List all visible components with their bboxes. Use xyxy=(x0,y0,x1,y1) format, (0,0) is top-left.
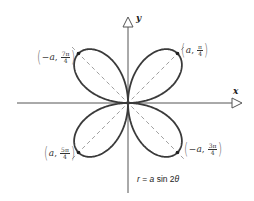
point-upper-left xyxy=(77,52,81,56)
open-paren: ( xyxy=(181,43,185,58)
eq-theta: θ xyxy=(175,174,180,184)
open-paren: ( xyxy=(184,142,188,157)
point-upper-right xyxy=(176,52,180,56)
label-a-pi-over-4: ( a, π 4 ) xyxy=(180,43,209,58)
point-lower-left xyxy=(77,151,81,155)
eq-equals: = xyxy=(140,174,150,184)
label-comma: , xyxy=(54,149,57,158)
close-paren: ) xyxy=(218,142,222,157)
fraction-denominator: 4 xyxy=(64,58,68,64)
label-neg-a-7pi-over-4: ( − a, 7π 4 ) xyxy=(36,50,76,65)
y-axis-arrow-icon xyxy=(123,17,133,27)
eq-rest: sin 2 xyxy=(154,174,174,184)
label-fraction: 7π 4 xyxy=(61,51,71,65)
close-paren: ) xyxy=(71,50,75,65)
label-comma: , xyxy=(202,145,205,154)
y-axis-label: y xyxy=(136,13,141,23)
fraction-denominator: 4 xyxy=(63,154,67,160)
point-lower-right xyxy=(176,151,180,155)
fraction-denominator: 4 xyxy=(211,150,215,156)
label-fraction: π 4 xyxy=(197,44,203,58)
open-paren: ( xyxy=(37,50,41,65)
x-axis-label: x xyxy=(233,86,238,96)
close-paren: ) xyxy=(71,146,75,161)
fraction-denominator: 4 xyxy=(198,51,202,57)
label-comma: , xyxy=(55,53,58,62)
label-sign: − xyxy=(42,53,50,62)
equation-label: r = a sin 2θ xyxy=(137,174,179,184)
polar-rose-figure xyxy=(0,0,254,201)
label-fraction: 3π 4 xyxy=(208,143,218,157)
close-paren: ) xyxy=(204,43,208,58)
label-neg-a-3pi-over-4: ( − a, 3π 4 ) xyxy=(183,142,223,157)
x-axis-arrow-icon xyxy=(232,98,242,108)
label-fraction: 5π 4 xyxy=(60,147,70,161)
label-sign: − xyxy=(189,145,197,154)
label-a-5pi-over-4: ( a, 5π 4 ) xyxy=(43,146,76,161)
label-comma: , xyxy=(191,46,194,55)
open-paren: ( xyxy=(44,146,48,161)
